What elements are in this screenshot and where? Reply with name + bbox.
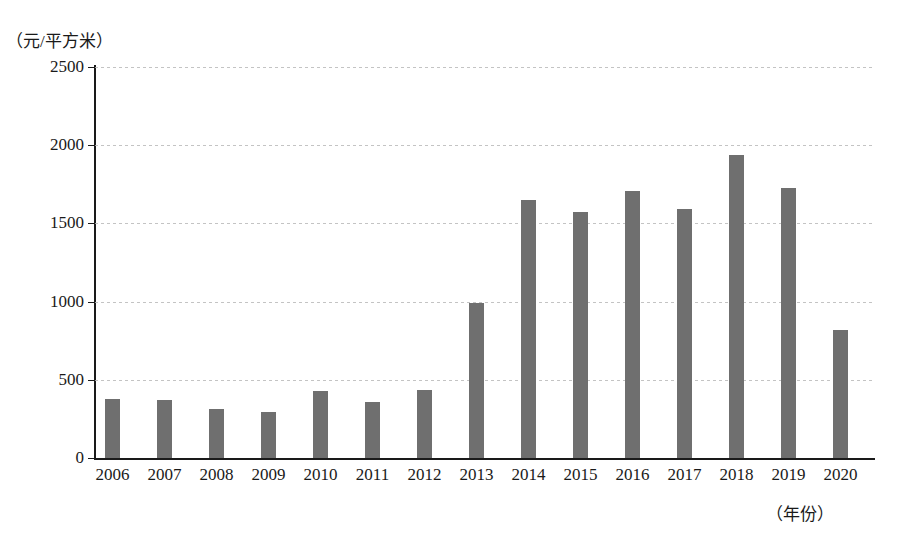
bar: [209, 409, 224, 458]
bar: [729, 155, 744, 458]
x-tick-label: 2013: [460, 465, 494, 485]
gridline: [95, 380, 875, 381]
x-tick-label: 2008: [200, 465, 234, 485]
x-tick-label: 2012: [408, 465, 442, 485]
y-tick-label: 2000: [50, 135, 84, 155]
gridline: [95, 145, 875, 146]
x-tick-label: 2014: [512, 465, 546, 485]
bar: [417, 390, 432, 458]
x-tick-label: 2007: [148, 465, 182, 485]
y-tick-mark: [88, 302, 95, 303]
bar: [469, 303, 484, 458]
bar: [365, 402, 380, 458]
x-axis-title: （年份）: [766, 500, 834, 525]
x-tick-label: 2010: [304, 465, 338, 485]
x-tick-label: 2016: [616, 465, 650, 485]
bar: [157, 400, 172, 458]
bar: [677, 209, 692, 458]
bar: [105, 399, 120, 458]
bar: [313, 391, 328, 458]
x-axis-line: [94, 458, 875, 460]
bar: [781, 188, 796, 458]
x-tick-label: 2019: [772, 465, 806, 485]
y-tick-label: 500: [59, 370, 85, 390]
x-tick-label: 2020: [824, 465, 858, 485]
y-tick-mark: [88, 145, 95, 146]
y-axis-title: （元/平方米）: [6, 27, 113, 52]
plot-area: 05001000150020002500 2006200720082009201…: [95, 67, 875, 458]
x-tick-label: 2009: [252, 465, 286, 485]
x-tick-label: 2011: [356, 465, 389, 485]
y-axis-line: [94, 65, 96, 458]
gridline: [95, 67, 875, 68]
y-tick-mark: [88, 223, 95, 224]
x-tick-label: 2006: [96, 465, 130, 485]
y-tick-label: 2500: [50, 57, 84, 77]
gridline: [95, 302, 875, 303]
x-tick-label: 2015: [564, 465, 598, 485]
bar: [625, 191, 640, 458]
x-tick-label: 2018: [720, 465, 754, 485]
y-tick-label: 1500: [50, 213, 84, 233]
bar-chart: （元/平方米） 05001000150020002500 20062007200…: [0, 0, 907, 553]
gridline: [95, 223, 875, 224]
y-tick-mark: [88, 380, 95, 381]
bar: [261, 412, 276, 458]
y-tick-mark: [88, 458, 95, 459]
x-tick-label: 2017: [668, 465, 702, 485]
bar: [833, 330, 848, 458]
bar: [521, 200, 536, 458]
y-tick-label: 1000: [50, 292, 84, 312]
y-tick-label: 0: [76, 448, 85, 468]
y-tick-mark: [88, 67, 95, 68]
bar: [573, 212, 588, 458]
